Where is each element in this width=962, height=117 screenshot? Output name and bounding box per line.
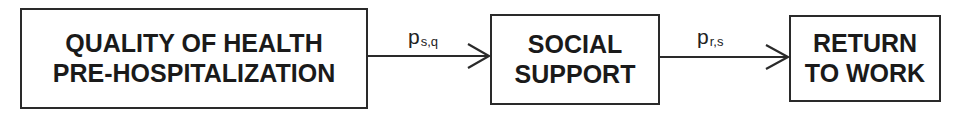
node-quality-of-health: QUALITY OF HEALTH PRE-HOSPITALIZATION xyxy=(20,8,368,109)
edge-label-prs: pr,s xyxy=(697,25,723,49)
edge-label-psq: ps,q xyxy=(408,25,438,49)
node-label-line: QUALITY OF HEALTH xyxy=(65,29,322,59)
node-label-line: SOCIAL xyxy=(528,30,622,60)
node-label-line: PRE-HOSPITALIZATION xyxy=(53,59,335,89)
node-label-line: RETURN xyxy=(813,29,917,59)
node-label-line: TO WORK xyxy=(805,59,925,89)
node-return-to-work: RETURN TO WORK xyxy=(789,15,941,102)
node-social-support: SOCIAL SUPPORT xyxy=(490,14,660,105)
node-label-line: SUPPORT xyxy=(515,60,636,90)
arrow-social-to-return xyxy=(660,41,791,73)
